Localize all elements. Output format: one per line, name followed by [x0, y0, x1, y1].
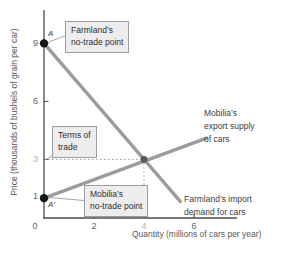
- terms-of-trade-callout: Terms of trade: [52, 126, 97, 158]
- import-demand-curve: [44, 43, 180, 201]
- import-demand-line2: demand for cars: [184, 206, 252, 219]
- farmland-no-trade-line1: Farmland’s: [71, 24, 123, 36]
- y-tick-1: 1: [24, 191, 38, 201]
- point-a-prime-label: A′: [48, 200, 55, 209]
- import-demand-curve-label: Farmland’s import demand for cars: [184, 193, 252, 219]
- no-trade-point: [40, 39, 48, 47]
- mobilia-no-trade-line1: Mobilia’s: [90, 188, 142, 200]
- point-a-label: A: [48, 29, 53, 38]
- mobilia-no-trade-callout: Mobilia’s no-trade point: [84, 185, 148, 217]
- leader-line: [50, 198, 84, 201]
- terms-of-trade-line2: trade: [58, 141, 91, 153]
- farmland-no-trade-callout: Farmland’s no-trade point: [65, 21, 129, 53]
- mobilia-no-trade-line2: no-trade point: [90, 200, 142, 212]
- x-tick-0: 0: [29, 221, 41, 231]
- y-tick-9: 9: [24, 38, 38, 48]
- export-supply-line3: of cars: [204, 133, 255, 146]
- x-axis-title: Quantity (millions of cars per year): [132, 229, 282, 239]
- equilibrium-point: [141, 156, 148, 163]
- y-tick-3: 3: [24, 154, 38, 164]
- terms-of-trade-line1: Terms of: [58, 129, 91, 141]
- y-tick-6: 6: [24, 96, 38, 106]
- x-tick-2: 2: [88, 221, 100, 231]
- y-axis-title: Price (thousands of bushels of grain per…: [9, 2, 19, 222]
- export-supply-line2: export supply: [204, 120, 255, 133]
- export-supply-line1: Mobilia’s: [204, 107, 255, 120]
- trade-equilibrium-figure: 9 6 3 1 0 2 4 6 Price (thousands of bush…: [0, 0, 282, 258]
- farmland-no-trade-line2: no-trade point: [71, 36, 123, 48]
- import-demand-line1: Farmland’s import: [184, 193, 252, 206]
- export-supply-curve-label: Mobilia’s export supply of cars: [204, 107, 255, 147]
- no-trade-point: [40, 194, 48, 202]
